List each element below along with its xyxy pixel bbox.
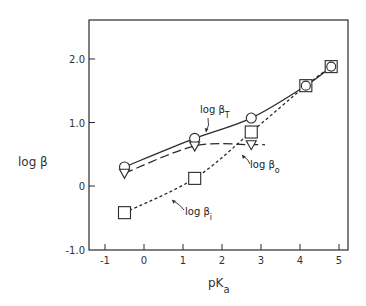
circle-marker-overlay [301, 81, 310, 90]
square-marker [119, 207, 131, 219]
chart: -1012345-1.001.02.0 log βTlog βolog βi l… [0, 0, 366, 306]
x-tick-label: 0 [141, 255, 147, 266]
annotation-beta-i-label: log βi [185, 206, 212, 222]
x-tick-label: 5 [336, 255, 342, 266]
circle-marker-overlay [327, 62, 336, 71]
x-tick-label: 4 [297, 255, 303, 266]
triangle-marker [120, 169, 130, 178]
annotation-beta-o-label: log βo [250, 159, 280, 175]
x-tick-label: -1 [100, 255, 110, 266]
y-tick-label: -1.0 [65, 245, 85, 256]
y-tick-label: 1.0 [69, 118, 85, 129]
x-axis-label: pKa [208, 276, 230, 295]
x-tick-label: 2 [219, 255, 225, 266]
x-tick-label: 1 [180, 255, 186, 266]
circle-marker [246, 113, 256, 123]
y-tick-label: 2.0 [69, 54, 85, 65]
y-tick-label: 0 [79, 181, 85, 192]
y-axis-label: log β [18, 155, 48, 169]
data-series [119, 61, 338, 219]
square-marker [189, 172, 201, 184]
square-marker [245, 126, 257, 138]
x-tick-label: 3 [258, 255, 264, 266]
annotation-beta-t-label: log βT [200, 104, 230, 120]
